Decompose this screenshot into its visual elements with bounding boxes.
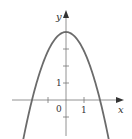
x-axis-label: x — [118, 104, 124, 115]
y-tick-label-1: 1 — [56, 78, 62, 88]
x-axis-arrow-icon — [116, 97, 124, 103]
x-tick-label-1: 1 — [81, 105, 87, 115]
origin-label: 0 — [56, 104, 62, 114]
parabola-graph: y x 0 1 1 — [0, 0, 132, 139]
y-axis-arrow-icon — [63, 10, 69, 18]
y-axis-label: y — [55, 11, 62, 22]
